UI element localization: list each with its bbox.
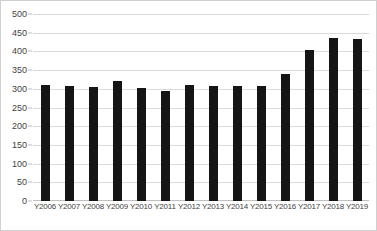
- bar-slot: [249, 14, 273, 201]
- x-tick-label: Y2007: [57, 203, 81, 212]
- x-axis-labels: Y2006Y2007Y2008Y2009Y2010Y2011Y2012Y2013…: [33, 203, 369, 212]
- y-tick-mark: [28, 144, 32, 145]
- bar: [113, 81, 122, 201]
- bar: [233, 86, 242, 201]
- bar-slot: [345, 14, 369, 201]
- bar-slot: [33, 14, 57, 201]
- y-tick-label: 250: [12, 103, 27, 112]
- x-tick-label: Y2011: [153, 203, 177, 212]
- y-tick-label: 450: [12, 28, 27, 37]
- bar-slot: [105, 14, 129, 201]
- y-tick-label: 100: [12, 159, 27, 168]
- x-tick-label: Y2010: [129, 203, 153, 212]
- bar: [281, 74, 290, 201]
- y-tick-mark: [28, 70, 32, 71]
- bar: [185, 85, 194, 201]
- x-tick-label: Y2013: [201, 203, 225, 212]
- y-tick-label: 200: [12, 122, 27, 131]
- y-tick-mark: [28, 182, 32, 183]
- y-tick-mark: [28, 14, 32, 15]
- bar-slot: [177, 14, 201, 201]
- y-tick-label: 150: [12, 140, 27, 149]
- y-tick-label: 350: [12, 66, 27, 75]
- bar: [353, 39, 362, 201]
- bar: [65, 86, 74, 201]
- x-tick-label: Y2016: [273, 203, 297, 212]
- y-tick-mark: [28, 201, 32, 202]
- x-tick-label: Y2014: [225, 203, 249, 212]
- x-tick-label: Y2019: [345, 203, 369, 212]
- x-tick-label: Y2012: [177, 203, 201, 212]
- bar-slot: [81, 14, 105, 201]
- y-tick-label: 300: [12, 84, 27, 93]
- x-tick-label: Y2008: [81, 203, 105, 212]
- plot-area: 050100150200250300350400450500: [33, 14, 369, 201]
- y-tick-mark: [28, 51, 32, 52]
- bar-slot: [225, 14, 249, 201]
- y-tick-mark: [28, 126, 32, 127]
- bar-slot: [153, 14, 177, 201]
- x-tick-label: Y2006: [33, 203, 57, 212]
- bar-slot: [321, 14, 345, 201]
- bar: [137, 88, 146, 201]
- bar: [329, 38, 338, 201]
- y-tick-label: 400: [12, 47, 27, 56]
- bar-slot: [57, 14, 81, 201]
- bar: [161, 91, 170, 201]
- x-tick-label: Y2018: [321, 203, 345, 212]
- bar-slot: [201, 14, 225, 201]
- y-tick-mark: [28, 32, 32, 33]
- bar-series: [33, 14, 369, 201]
- y-tick-mark: [28, 88, 32, 89]
- x-tick-label: Y2009: [105, 203, 129, 212]
- bar-slot: [273, 14, 297, 201]
- bar: [257, 86, 266, 201]
- x-tick-label: Y2015: [249, 203, 273, 212]
- bar: [89, 87, 98, 201]
- y-tick-label: 0: [22, 197, 27, 206]
- x-tick-label: Y2017: [297, 203, 321, 212]
- bar-slot: [297, 14, 321, 201]
- y-tick-label: 50: [17, 178, 27, 187]
- y-tick-mark: [28, 163, 32, 164]
- y-tick-mark: [28, 107, 32, 108]
- bar: [209, 86, 218, 201]
- y-tick-label: 500: [12, 10, 27, 19]
- bar-slot: [129, 14, 153, 201]
- bar: [305, 50, 314, 201]
- bar-chart: 050100150200250300350400450500 Y2006Y200…: [0, 0, 377, 231]
- bar: [41, 85, 50, 201]
